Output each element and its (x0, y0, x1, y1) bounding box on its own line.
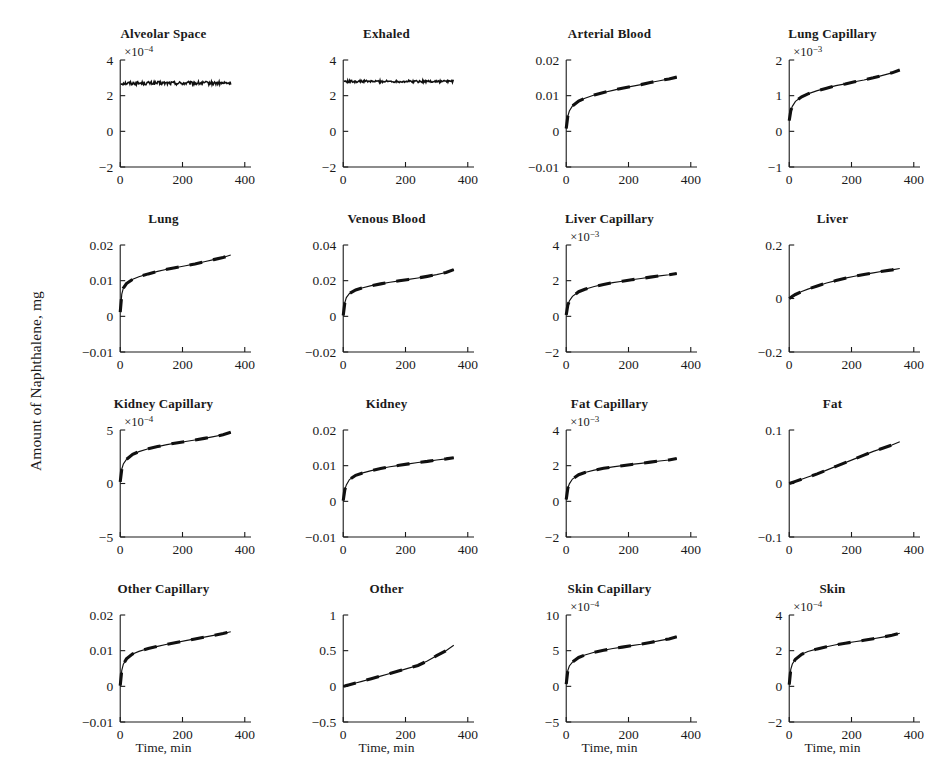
x-tick-label: 200 (395, 172, 416, 187)
x-tick-label: 400 (235, 357, 256, 372)
y-tick-label: −0.02 (305, 345, 336, 360)
x-axis-label: Time, min (721, 740, 944, 756)
y-tick-label: 2 (552, 273, 559, 288)
y-tick-label: −5 (545, 715, 560, 730)
data-curve-solid (566, 274, 677, 315)
x-tick-label: 400 (681, 542, 702, 557)
y-tick-label: 0 (775, 124, 782, 139)
y-tick-label: 0 (552, 309, 559, 324)
data-curve-dashed (789, 70, 900, 121)
data-curve-dashed (120, 432, 231, 482)
data-curve-dashed (120, 632, 231, 686)
subplot-lung-capillary: Lung Capillary−10120200400×10−3 (721, 18, 944, 203)
y-tick-label: 0 (329, 124, 336, 139)
x-tick-label: 200 (395, 357, 416, 372)
y-tick-label: −2 (768, 715, 782, 730)
y-tick-label: −0.1 (758, 530, 783, 545)
data-curve-solid (120, 432, 231, 482)
x-tick-label: 400 (681, 357, 702, 372)
data-curve-solid (120, 255, 231, 312)
y-tick-label: 0 (552, 124, 559, 139)
x-tick-label: 200 (618, 357, 639, 372)
data-curve-solid (120, 632, 231, 686)
y-axis-label: Amount of Naphthalene, mg (16, 0, 56, 761)
x-tick-label: 0 (117, 357, 124, 372)
y-tick-label: 0 (552, 494, 559, 509)
subplot-plot-area: −10120200400×10−3 (721, 40, 944, 203)
subplot-plot-area: −20240200400×10−3 (498, 225, 721, 388)
subplot-liver: Liver−0.200.20200400 (721, 203, 944, 388)
x-tick-label: 0 (563, 542, 570, 557)
subplot-plot-area: −0.0100.010.020200400 (52, 225, 275, 388)
y-tick-label: −2 (99, 160, 113, 175)
y-tick-label: 5 (552, 643, 559, 658)
subplot-other-capillary: Other Capillary−0.0100.010.020200400Time… (52, 573, 275, 758)
y-tick-label: 0.01 (313, 458, 337, 473)
y-tick-label: 4 (329, 53, 336, 68)
subplot-plot-area: −0.0100.010.020200400 (275, 410, 498, 573)
y-tick-label: −2 (322, 160, 336, 175)
subplot-skin: Skin−20240200400×10−4Time, min (721, 573, 944, 758)
x-tick-label: 400 (235, 172, 256, 187)
y-tick-label: 2 (106, 88, 113, 103)
data-curve-solid (789, 269, 900, 299)
y-tick-label: 0 (552, 679, 559, 694)
y-tick-label: −5 (99, 530, 114, 545)
y-tick-label: −1 (768, 160, 782, 175)
y-tick-label: 0 (775, 291, 782, 306)
subplot-venous-blood: Venous Blood−0.0200.020.040200400 (275, 203, 498, 388)
subplot-plot-area: −0.0200.020.040200400 (275, 225, 498, 388)
subplot-fat: Fat−0.100.10200400 (721, 388, 944, 573)
y-tick-label: −0.01 (305, 530, 336, 545)
x-tick-label: 200 (841, 542, 862, 557)
subplot-plot-area: −20240200400×10−4 (721, 595, 944, 758)
subplot-plot-area: −505100200400×10−4 (498, 595, 721, 758)
subplot-kidney-capillary: Kidney Capillary−5050200400×10−4 (52, 388, 275, 573)
x-tick-label: 400 (458, 542, 479, 557)
data-curve-solid (566, 77, 677, 128)
subplot-plot-area: −0.0100.010.020200400 (52, 595, 275, 758)
axis-exponent-label: ×10−4 (124, 414, 154, 429)
x-tick-label: 200 (172, 542, 193, 557)
data-curve-dashed (343, 270, 454, 316)
x-tick-label: 0 (117, 542, 124, 557)
y-tick-label: 0.5 (319, 643, 336, 658)
y-tick-label: 0.01 (90, 273, 114, 288)
y-tick-label: 0 (329, 309, 336, 324)
y-tick-label: 0.2 (765, 238, 782, 253)
y-tick-label: 0.1 (765, 423, 782, 438)
x-tick-label: 200 (618, 172, 639, 187)
x-tick-label: 400 (458, 357, 479, 372)
subplot-fat-capillary: Fat Capillary−20240200400×10−3 (498, 388, 721, 573)
y-tick-label: 1 (775, 88, 782, 103)
x-tick-label: 0 (786, 172, 793, 187)
data-curve-dashed (566, 274, 677, 315)
subplot-plot-area: −20240200400×10−3 (498, 410, 721, 573)
y-tick-label: 0 (329, 494, 336, 509)
x-axis-label: Time, min (498, 740, 721, 756)
x-axis-label: Time, min (52, 740, 275, 756)
y-tick-label: 0 (106, 124, 113, 139)
subplot-arterial-blood: Arterial Blood−0.0100.010.020200400 (498, 18, 721, 203)
y-tick-label: 4 (552, 423, 559, 438)
subplot-plot-area: −20240200400×10−4 (52, 40, 275, 203)
x-tick-label: 0 (340, 172, 347, 187)
data-curve-dashed (566, 459, 677, 500)
y-tick-label: 0.02 (90, 238, 114, 253)
subplot-plot-area: −5050200400×10−4 (52, 410, 275, 573)
y-tick-label: 1 (329, 608, 336, 623)
y-tick-label: 5 (106, 423, 113, 438)
y-tick-label: 10 (546, 608, 560, 623)
y-tick-label: 0 (775, 476, 782, 491)
y-tick-label: 2 (329, 88, 336, 103)
subplot-exhaled: Exhaled−20240200400 (275, 18, 498, 203)
figure-panel-grid: Amount of Naphthalene, mg Alveolar Space… (0, 0, 944, 761)
y-tick-label: 4 (106, 53, 113, 68)
y-tick-label: 0.02 (90, 608, 114, 623)
axis-exponent-label: ×10−3 (570, 414, 600, 429)
y-tick-label: 2 (552, 458, 559, 473)
x-tick-label: 0 (340, 542, 347, 557)
subplot-plot-area: −20240200400 (275, 40, 498, 203)
y-axis-label-text: Amount of Naphthalene, mg (27, 291, 45, 471)
x-tick-label: 400 (235, 542, 256, 557)
